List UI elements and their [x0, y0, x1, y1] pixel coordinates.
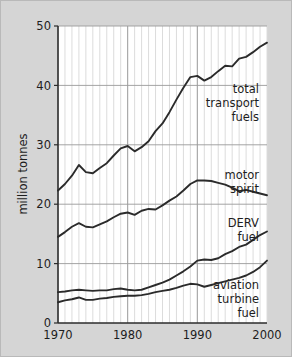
series-label-line: transport: [206, 96, 260, 110]
x-axis-tick-labels: 1970198019902000: [43, 328, 281, 342]
series-label-line: total: [233, 82, 259, 96]
x-tick-label-1970: 1970: [43, 328, 72, 342]
series-label-line: fuels: [231, 110, 259, 124]
series-label-motor-spirit: motorspirit: [224, 168, 259, 196]
series-label-line: aviation: [213, 278, 259, 292]
series-label-line: DERV: [228, 216, 259, 230]
transport-fuels-line-chart: 01020304050 1970198019902000 million ton…: [1, 1, 292, 357]
y-tick-label-10: 10: [36, 257, 51, 271]
series-label-line: spirit: [230, 182, 259, 196]
series-label-line: fuel: [237, 230, 259, 244]
y-tick-label-30: 30: [36, 138, 51, 152]
y-tick-label-40: 40: [36, 79, 51, 93]
series-label-line: fuel: [237, 306, 259, 320]
y-axis-title: million tonnes: [16, 133, 30, 214]
x-tick-label-1980: 1980: [113, 328, 142, 342]
x-tick-label-2000: 2000: [252, 328, 281, 342]
chart-frame: 01020304050 1970198019902000 million ton…: [0, 0, 292, 357]
y-tick-label-20: 20: [36, 197, 51, 211]
y-axis-tick-labels: 01020304050: [36, 19, 58, 330]
x-tick-label-1990: 1990: [183, 328, 212, 342]
y-tick-label-50: 50: [36, 19, 51, 33]
chart-svg: 01020304050 1970198019902000 million ton…: [1, 1, 292, 357]
series-label-line: turbine: [218, 292, 259, 306]
y-axis-title-group: million tonnes: [16, 133, 30, 214]
series-label-line: motor: [224, 168, 259, 182]
